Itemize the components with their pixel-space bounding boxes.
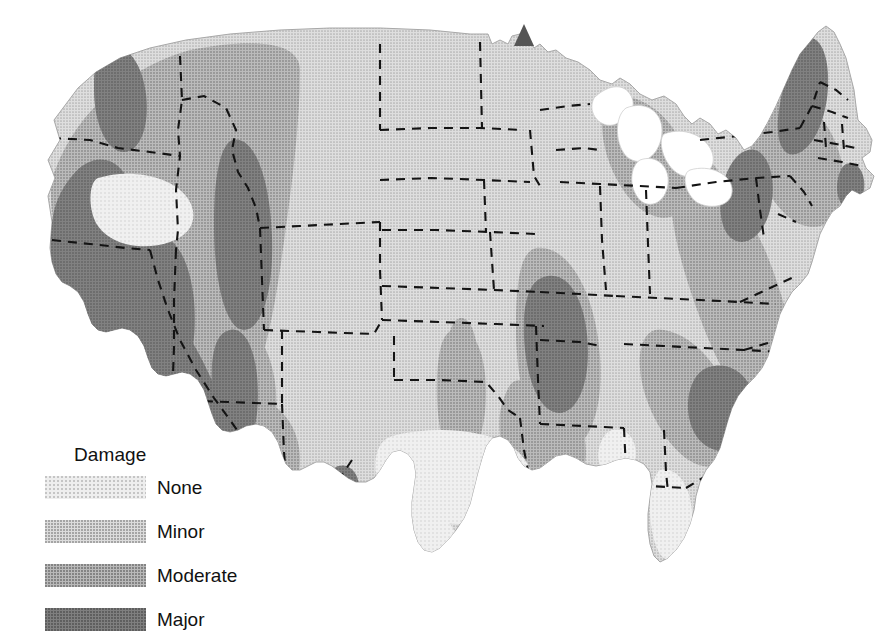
legend-item-minor: Minor (45, 520, 285, 546)
legend-label-moderate: Moderate (157, 565, 237, 587)
figure-canvas: Damage None Minor Moderate Major (0, 0, 890, 631)
swatch-major (45, 608, 146, 631)
legend-item-major: Major (45, 608, 285, 631)
swatch-minor (45, 520, 146, 543)
legend-label-none: None (157, 477, 202, 499)
swatch-none (45, 476, 146, 499)
legend-item-none: None (45, 476, 285, 502)
legend: Damage None Minor Moderate Major (45, 444, 285, 624)
legend-label-minor: Minor (157, 521, 205, 543)
legend-title: Damage (74, 444, 146, 466)
swatch-moderate (45, 564, 146, 587)
legend-item-moderate: Moderate (45, 564, 285, 590)
legend-label-major: Major (157, 609, 205, 631)
